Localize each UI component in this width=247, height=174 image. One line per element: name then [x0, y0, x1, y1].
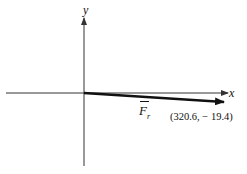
vector-overbar-icon [140, 101, 149, 102]
vector-symbol: F [139, 103, 147, 118]
coordinate-plane [0, 0, 247, 174]
vector-subscript: r [147, 112, 150, 121]
vector-label: Fr [139, 104, 150, 121]
y-axis-label: y [83, 4, 88, 16]
vector-coordinates: (320.6, − 19.4) [170, 112, 233, 123]
resultant-vector-arrow [84, 93, 224, 102]
x-axis-label: x [229, 87, 234, 99]
